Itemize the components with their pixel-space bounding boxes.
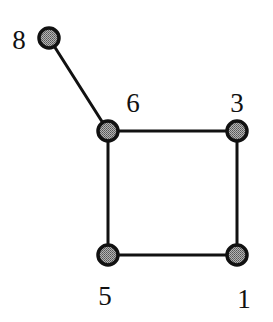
node-1 <box>227 245 247 265</box>
nodes-group <box>39 28 247 265</box>
node-label-8: 8 <box>12 25 26 55</box>
node-label-6: 6 <box>126 88 140 118</box>
node-3 <box>227 121 247 141</box>
graph-diagram: 86351 <box>0 0 273 322</box>
edge-8-6 <box>49 38 108 131</box>
node-label-3: 3 <box>230 88 244 118</box>
node-6 <box>98 121 118 141</box>
labels-group: 86351 <box>12 25 251 314</box>
node-5 <box>98 245 118 265</box>
node-label-1: 1 <box>237 284 251 314</box>
node-8 <box>39 28 59 48</box>
node-label-5: 5 <box>98 281 112 311</box>
edges-group <box>49 38 237 255</box>
